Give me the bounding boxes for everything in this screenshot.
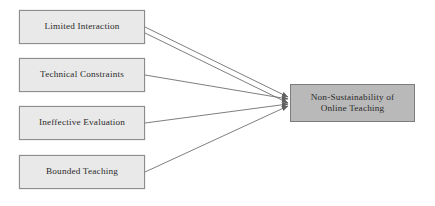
edge-limited-interaction bbox=[145, 27, 288, 97]
node-limited-interaction[interactable]: Limited Interaction bbox=[19, 10, 145, 44]
edge-technical-constraints bbox=[145, 75, 288, 99]
node-label-technical-constraints: Technical Constraints bbox=[40, 69, 124, 81]
edge-limited-interaction-secondary bbox=[145, 33, 288, 103]
node-bounded-teaching[interactable]: Bounded Teaching bbox=[19, 155, 145, 189]
node-ineffective-evaluation[interactable]: Ineffective Evaluation bbox=[19, 106, 145, 140]
edge-group bbox=[145, 27, 288, 172]
node-non-sustainability-of-online-teaching[interactable]: Non-Sustainability of Online Teaching bbox=[290, 84, 415, 122]
node-label-limited-interaction: Limited Interaction bbox=[45, 21, 120, 33]
edge-ineffective-evaluation bbox=[145, 104, 288, 123]
node-label-bounded-teaching: Bounded Teaching bbox=[46, 166, 118, 178]
node-label-non-sustainability-of-online-teaching: Non-Sustainability of Online Teaching bbox=[311, 92, 395, 115]
diagram-canvas: Limited Interaction Technical Constraint… bbox=[0, 0, 435, 206]
edge-bounded-teaching bbox=[145, 106, 288, 172]
node-technical-constraints[interactable]: Technical Constraints bbox=[19, 58, 145, 92]
node-label-ineffective-evaluation: Ineffective Evaluation bbox=[39, 117, 125, 129]
